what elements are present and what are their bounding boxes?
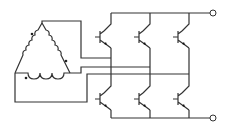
negative-rail-terminal — [210, 115, 216, 121]
coil-bottom — [15, 73, 70, 79]
npn-transistor-icon — [95, 93, 111, 110]
bridge-leg-3 — [173, 13, 189, 118]
npn-transistor-icon — [95, 31, 111, 48]
phase-b-wire — [70, 67, 150, 73]
coil-left — [15, 23, 42, 73]
bridge-leg-1 — [95, 13, 111, 118]
npn-transistor-icon — [134, 31, 150, 48]
polarity-dot — [31, 33, 34, 36]
bridge-leg-2 — [134, 13, 150, 118]
circuit-diagram — [0, 0, 231, 129]
polarity-dot — [65, 60, 68, 63]
polarity-dot — [25, 77, 28, 80]
npn-transistor-icon — [134, 93, 150, 110]
positive-rail-terminal — [210, 10, 216, 16]
npn-transistor-icon — [173, 93, 189, 110]
npn-transistor-icon — [173, 31, 189, 48]
delta-winding — [15, 23, 70, 79]
coil-right — [42, 23, 70, 73]
